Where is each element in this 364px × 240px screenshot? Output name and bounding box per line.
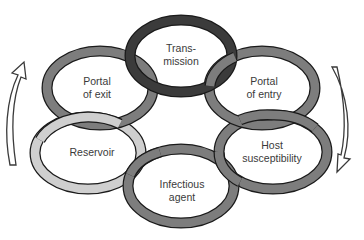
chain-of-infection-diagram: Trans-mission Portalof exit Portalof ent…: [0, 0, 364, 240]
label-transmission: Trans-mission: [163, 42, 199, 67]
label-portal-of-entry: Portalof entry: [246, 75, 282, 100]
label-infectious-agent: Infectiousagent: [160, 178, 205, 203]
label-host-susceptibility: Hostsusceptibility: [242, 139, 302, 164]
label-portal-of-exit: Portalof exit: [83, 75, 111, 100]
label-reservoir: Reservoir: [70, 146, 115, 158]
ring-infectious-agent-overlap: [130, 152, 160, 175]
ring-host-overlap: [219, 152, 240, 182]
arrow-up-icon: [7, 62, 26, 165]
arrow-down-icon: [332, 67, 350, 172]
